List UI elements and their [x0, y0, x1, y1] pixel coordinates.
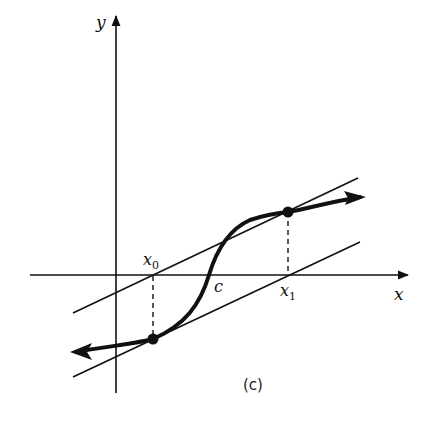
x0-label: x0 — [143, 250, 159, 272]
y-axis-label: y — [95, 12, 106, 32]
x-axis-label: x — [394, 284, 404, 304]
point-x0-on-curve — [148, 334, 159, 345]
diagram: y x x0 c x1 (c) — [0, 0, 433, 434]
figure-caption: (c) — [243, 376, 263, 394]
c-label: c — [214, 277, 223, 296]
x1-label: x1 — [280, 281, 296, 303]
point-x1-on-curve — [283, 207, 294, 218]
